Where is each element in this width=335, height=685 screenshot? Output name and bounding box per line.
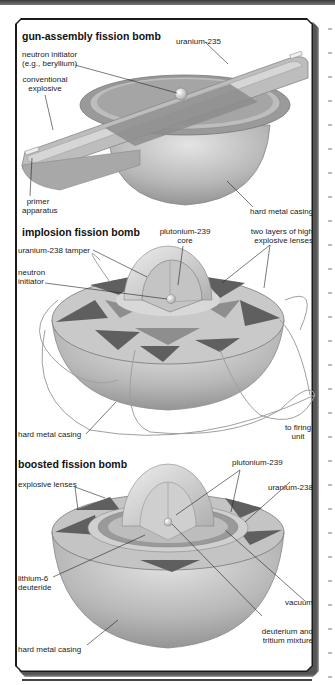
label-primer-apparatus-line2: apparatus <box>22 206 58 216</box>
label-boosted-hard-metal-casing: hard metal casing <box>18 645 81 655</box>
label-to-firing-unit-line2: unit <box>280 432 316 442</box>
implosion-bomb-drawing <box>39 246 315 435</box>
label-implosion-hard-metal-casing: hard metal casing <box>18 430 81 440</box>
label-conventional-explosive-line2: explosive <box>20 84 70 94</box>
label-deuterium-tritium-line2: tritium mixture <box>240 636 313 646</box>
label-uranium-238: uranium-238 <box>268 483 313 493</box>
label-uranium-238-tamper: uranium-238 tamper <box>18 246 90 256</box>
label-vacuum: vacuum <box>250 598 313 608</box>
label-gun-hard-metal-casing: hard metal casing <box>250 207 313 217</box>
label-plutonium-core-line2: core <box>155 236 215 246</box>
label-lithium-deuteride-line2: deuteride <box>18 583 51 593</box>
label-neutron-initiator-line2: initiator <box>18 277 44 287</box>
boosted-title: boosted fission bomb <box>18 458 127 470</box>
gun-assembly-title: gun-assembly fission bomb <box>22 30 161 42</box>
implosion-title: implosion fission bomb <box>22 226 140 238</box>
label-uranium-235: uranium-235 <box>176 37 221 47</box>
label-neutron-initiator-line2: (e.g., beryllium) <box>22 59 77 69</box>
label-explosive-lenses: explosive lenses <box>18 480 77 490</box>
label-plutonium-239: plutonium-239 <box>232 458 283 468</box>
label-explosive-lenses-line2: explosive lenses <box>236 236 313 246</box>
